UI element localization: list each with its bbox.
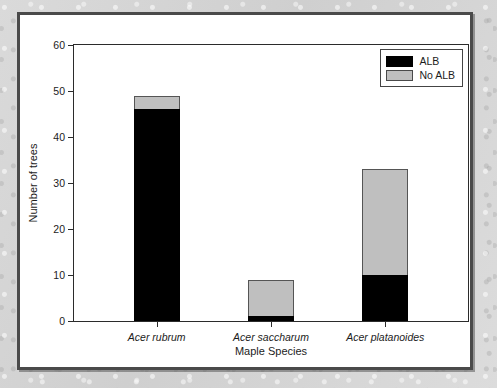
y-axis-tick-label: 40 <box>53 131 65 143</box>
bar-segment-no-alb[interactable] <box>134 96 180 110</box>
x-axis-tick <box>385 321 386 327</box>
x-axis-tick <box>271 321 272 327</box>
x-axis-tick <box>157 321 158 327</box>
y-axis-title: Number of trees <box>27 144 39 223</box>
y-axis-tick-label: 10 <box>53 269 65 281</box>
x-axis-title: Maple Species <box>73 345 469 357</box>
gray-swatch-icon <box>386 70 413 81</box>
y-axis-tick <box>68 45 74 46</box>
legend-item-no-alb[interactable]: No ALB <box>386 68 455 82</box>
y-axis-tick-label: 50 <box>53 85 65 97</box>
y-axis-tick-label: 60 <box>53 39 65 51</box>
bar-acer-saccharum[interactable] <box>248 280 294 321</box>
x-axis-category-label: Acer platanoides <box>346 331 424 343</box>
bar-segment-alb[interactable] <box>134 109 180 321</box>
y-axis-tick <box>68 229 74 230</box>
legend-item-alb[interactable]: ALB <box>386 54 455 68</box>
legend-label: ALB <box>419 55 439 67</box>
black-swatch-icon <box>386 56 413 67</box>
bar-segment-no-alb[interactable] <box>362 169 408 275</box>
y-axis-tick <box>68 183 74 184</box>
y-axis-tick-label: 30 <box>53 177 65 189</box>
y-axis-tick-label: 0 <box>59 315 65 327</box>
bar-segment-no-alb[interactable] <box>248 280 294 317</box>
y-axis-tick <box>68 275 74 276</box>
plot-area: 0 10 20 30 40 50 60 Acer rubrum Acer sac… <box>73 44 469 322</box>
legend-label: No ALB <box>419 69 455 81</box>
y-axis-tick <box>68 321 74 322</box>
y-axis-tick <box>68 91 74 92</box>
y-axis-tick <box>68 137 74 138</box>
bar-acer-platanoides[interactable] <box>362 169 408 321</box>
legend: ALB No ALB <box>380 49 463 87</box>
bar-acer-rubrum[interactable] <box>134 96 180 321</box>
x-axis-category-label: Acer rubrum <box>128 331 186 343</box>
figure-panel: Number of trees Maple Species 0 10 20 30… <box>17 12 473 370</box>
x-axis-category-label: Acer saccharum <box>233 331 309 343</box>
bar-segment-alb[interactable] <box>362 275 408 321</box>
y-axis-tick-label: 20 <box>53 223 65 235</box>
bar-segment-alb[interactable] <box>248 316 294 321</box>
page-background: Number of trees Maple Species 0 10 20 30… <box>0 0 497 388</box>
